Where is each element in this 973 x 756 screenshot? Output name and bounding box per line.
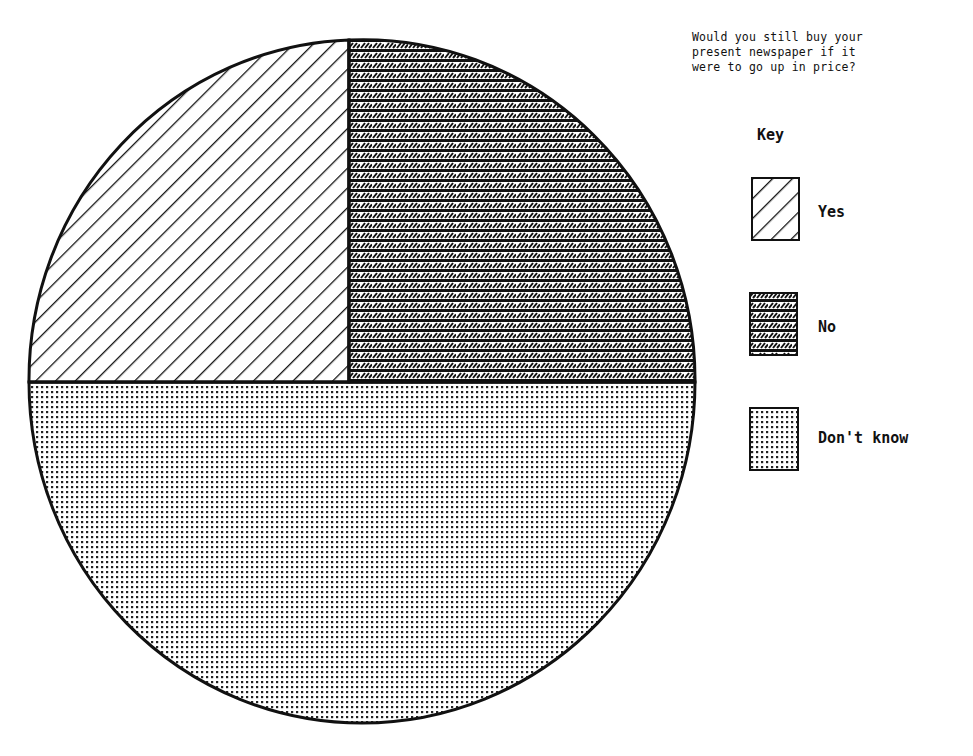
slice-dont-know <box>29 382 695 723</box>
legend-label-yes: Yes <box>818 203 845 221</box>
legend-swatch-no <box>750 293 797 355</box>
legend-swatch-dont-know <box>750 408 798 470</box>
legend-label-no: No <box>818 318 836 336</box>
chart-question: Would you still buy your present newspap… <box>692 30 972 75</box>
pie-chart <box>0 0 973 756</box>
legend-label-dont-know: Don't know <box>818 429 908 447</box>
legend-swatch-yes <box>752 178 799 240</box>
slice-yes <box>29 40 349 382</box>
legend-title: Key <box>757 126 784 144</box>
slice-no <box>349 40 695 382</box>
